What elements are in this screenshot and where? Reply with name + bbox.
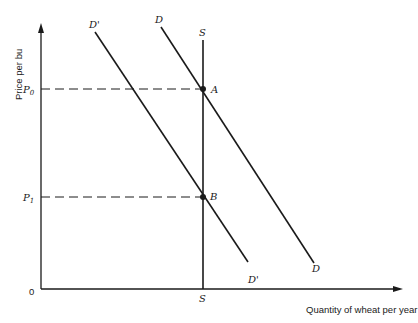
supply-bottom-label: S — [199, 293, 206, 304]
demand-curve — [161, 27, 314, 263]
demand-bottom-label: D — [311, 263, 320, 274]
demand-top-label: D — [154, 14, 163, 25]
p1-label: P1 — [22, 192, 34, 205]
x-axis-label: Quantity of wheat per year — [306, 304, 417, 315]
demand-shifted-bottom-label: D' — [247, 274, 259, 285]
point-a-marker — [200, 86, 206, 92]
origin-label: 0 — [29, 286, 34, 297]
point-b-label: B — [209, 191, 217, 202]
demand-shifted-top-label: D' — [88, 19, 100, 30]
point-a-label: A — [210, 84, 218, 95]
demand-shifted-curve — [95, 32, 248, 262]
supply-demand-diagram: Price per bu Quantity of wheat per year … — [0, 0, 418, 323]
x-axis-arrow-icon — [393, 286, 403, 292]
y-axis-arrow-icon — [38, 23, 44, 33]
point-b-marker — [200, 194, 206, 200]
supply-top-label: S — [199, 27, 206, 38]
